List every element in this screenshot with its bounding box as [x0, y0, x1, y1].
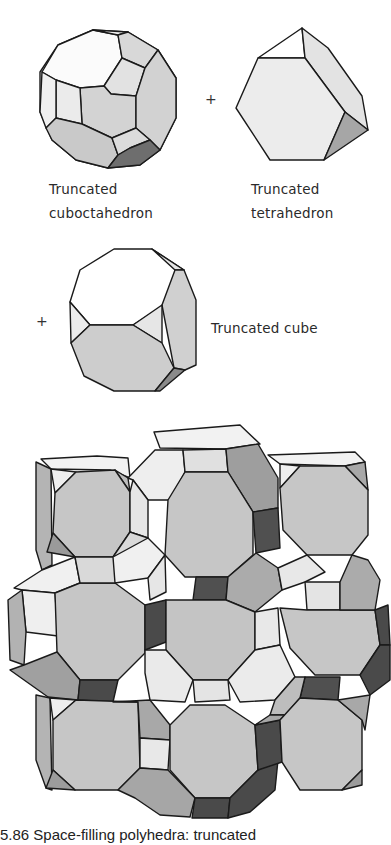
truncated-cuboctahedron-label: Truncated cuboctahedron [49, 180, 153, 223]
truncated-tetrahedron-label: Truncated tetrahedron [251, 180, 333, 223]
truncated-cube-illustration [68, 245, 203, 395]
plus-operator: + [205, 91, 217, 107]
truncated-tetrahedron-illustration [235, 26, 385, 166]
space-filling-honeycomb-illustration [0, 420, 391, 820]
plus-operator: + [36, 313, 48, 329]
figure-caption: 5.86 Space-filling polyhedra: truncated [0, 826, 256, 843]
truncated-cuboctahedron-illustration [36, 26, 186, 171]
truncated-cube-label: Truncated cube [211, 319, 318, 338]
